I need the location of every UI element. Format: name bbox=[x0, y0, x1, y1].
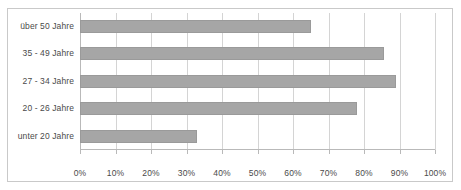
x-axis-tick-mark bbox=[187, 150, 188, 154]
bar-chart: über 50 Jahre35 - 49 Jahre27 - 34 Jahre2… bbox=[0, 0, 461, 190]
x-axis-tick-label: 40% bbox=[213, 168, 230, 178]
category-label: 27 - 34 Jahre bbox=[23, 75, 74, 88]
x-axis-tick-mark bbox=[80, 150, 81, 154]
x-axis-tick-mark bbox=[435, 150, 436, 154]
x-axis-tick-mark bbox=[116, 150, 117, 154]
x-axis-tick-label: 90% bbox=[391, 168, 408, 178]
x-axis-tick-mark bbox=[329, 150, 330, 154]
x-axis-tick-mark bbox=[400, 150, 401, 154]
x-axis-tick-label: 0% bbox=[74, 168, 87, 178]
x-axis-tick-label: 60% bbox=[284, 168, 301, 178]
x-axis-tick-mark bbox=[258, 150, 259, 154]
x-axis-tick-label: 10% bbox=[107, 168, 124, 178]
category-label: 20 - 26 Jahre bbox=[23, 102, 74, 115]
x-axis-tick-label: 50% bbox=[249, 168, 266, 178]
x-axis-tick-labels: 0%10%20%30%40%50%60%70%80%90%100% bbox=[80, 13, 435, 150]
x-axis-tick-mark bbox=[364, 150, 365, 154]
x-axis-tick-mark bbox=[151, 150, 152, 154]
x-axis-tick-mark bbox=[222, 150, 223, 154]
category-label: unter 20 Jahre bbox=[18, 130, 74, 143]
x-axis-tick-label: 30% bbox=[178, 168, 195, 178]
x-axis-tick-mark bbox=[293, 150, 294, 154]
category-label: über 50 Jahre bbox=[20, 20, 74, 33]
gridline bbox=[435, 13, 436, 150]
x-axis-tick-label: 80% bbox=[355, 168, 372, 178]
plot-area: über 50 Jahre35 - 49 Jahre27 - 34 Jahre2… bbox=[80, 13, 435, 150]
x-axis-tick-label: 100% bbox=[424, 168, 446, 178]
x-axis-tick-label: 20% bbox=[142, 168, 159, 178]
category-label: 35 - 49 Jahre bbox=[23, 47, 74, 60]
x-axis-tick-label: 70% bbox=[320, 168, 337, 178]
